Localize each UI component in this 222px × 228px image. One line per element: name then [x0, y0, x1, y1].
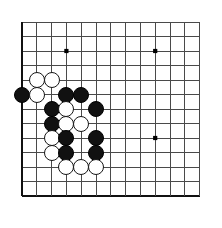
white-stone[interactable]: [73, 116, 89, 132]
star-point: [64, 49, 68, 53]
black-stone[interactable]: [44, 101, 60, 117]
black-stone[interactable]: [88, 101, 104, 117]
black-stone[interactable]: [14, 87, 30, 103]
go-problem-diagram: 问题图: [0, 0, 222, 228]
black-stone[interactable]: [88, 130, 104, 146]
black-stone[interactable]: [73, 87, 89, 103]
white-stone[interactable]: [44, 145, 60, 161]
white-stone[interactable]: [44, 72, 60, 88]
star-point: [153, 49, 157, 53]
white-stone[interactable]: [29, 72, 45, 88]
white-stone[interactable]: [44, 130, 60, 146]
caption-bar: 问题图: [0, 200, 222, 228]
star-point: [153, 136, 157, 140]
go-board[interactable]: [0, 0, 222, 200]
white-stone[interactable]: [29, 87, 45, 103]
white-stone[interactable]: [88, 159, 104, 175]
